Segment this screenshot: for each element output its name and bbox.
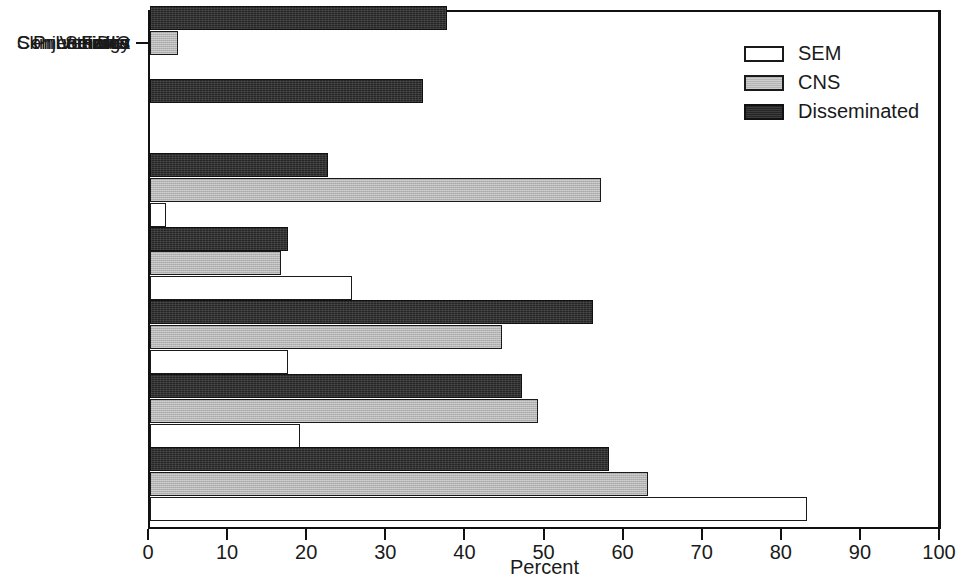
legend-swatch-dis — [744, 104, 784, 120]
x-axis-tick — [226, 529, 228, 540]
bar-cns — [150, 399, 538, 423]
x-axis-tick — [859, 529, 861, 540]
x-axis-tick — [384, 529, 386, 540]
x-axis-tick — [622, 529, 624, 540]
x-axis-tick — [543, 529, 545, 540]
bar-sem — [150, 497, 807, 521]
bar-dis — [150, 79, 423, 103]
legend-swatch-cns — [744, 75, 784, 91]
bar-cns — [150, 31, 178, 55]
bar-cns — [150, 251, 281, 275]
bar-sem — [150, 276, 352, 300]
bar-group — [150, 306, 941, 380]
x-axis-tick — [780, 529, 782, 540]
legend-item-sem: SEM — [744, 40, 934, 67]
bar-chart: PneumoniaDICSeizureConjunctivitisFeverLe… — [0, 0, 962, 581]
bar-dis — [150, 153, 328, 177]
bar-dis — [150, 300, 593, 324]
bar-dis — [150, 374, 522, 398]
bar-dis — [150, 6, 447, 30]
x-axis-tick — [938, 529, 940, 540]
bar-dis — [150, 447, 609, 471]
bar-cns — [150, 472, 648, 496]
y-axis-label-skin-vesicles: Skin Vesicles — [17, 32, 130, 54]
legend-item-cns: CNS — [744, 69, 934, 96]
y-axis-tick — [136, 42, 148, 44]
x-axis-tick — [463, 529, 465, 540]
bar-group — [150, 159, 941, 233]
x-axis-tick — [147, 529, 149, 540]
legend-item-dis: Disseminated — [744, 98, 934, 125]
bar-cns — [150, 325, 502, 349]
bar-group — [150, 233, 941, 307]
legend-label: Disseminated — [798, 100, 919, 123]
x-axis-title: Percent — [148, 556, 941, 579]
bar-sem — [150, 203, 166, 227]
legend-label: CNS — [798, 71, 840, 94]
bar-sem — [150, 424, 300, 448]
chart-legend: SEMCNSDisseminated — [744, 40, 934, 127]
legend-label: SEM — [798, 42, 841, 65]
x-axis-tick — [701, 529, 703, 540]
bar-group — [150, 453, 941, 527]
bar-sem — [150, 350, 288, 374]
x-axis-tick — [305, 529, 307, 540]
bar-dis — [150, 227, 288, 251]
bar-cns — [150, 178, 601, 202]
bar-group — [150, 380, 941, 454]
y-axis-category-labels: PneumoniaDICSeizureConjunctivitisFeverLe… — [0, 12, 148, 527]
legend-swatch-sem — [744, 46, 784, 62]
